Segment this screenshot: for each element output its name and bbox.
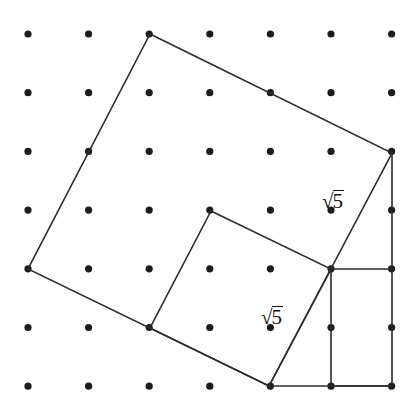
grid-dot [388,89,395,96]
grid-dot [85,324,92,331]
geometry-figure-canvas [0,0,419,405]
grid-dot [206,89,213,96]
grid-dot [388,30,395,37]
small-tilted-square [150,211,331,386]
radical-group-lower: √5 [261,306,283,328]
grid-dot [24,383,31,390]
grid-dot [206,265,213,272]
grid-dot [85,30,92,37]
radicand-value: 5 [333,190,345,212]
grid-dot [146,265,153,272]
grid-dot [85,265,92,272]
grid-dot [24,148,31,155]
grid-dot [146,383,153,390]
grid-dot [206,383,213,390]
grid-dot [24,324,31,331]
grid-dot [85,89,92,96]
length-label-lower: √5 [261,306,283,328]
grid-dot [146,89,153,96]
length-label-upper: √5 [322,190,344,212]
figure-root: √5 √5 [0,0,419,405]
grid-dot [146,207,153,214]
grid-dot [327,89,334,96]
grid-dot [327,148,334,155]
grid-dot [206,30,213,37]
radical-group-upper: √5 [322,190,344,212]
grid-dot [85,383,92,390]
grid-dot [267,207,274,214]
grid-dot [24,30,31,37]
radicand-value: 5 [272,306,284,328]
grid-dot [85,207,92,214]
grid-dot [327,30,334,37]
grid-dot [267,148,274,155]
grid-dot [267,30,274,37]
grid-dot [24,207,31,214]
grid-dot [146,148,153,155]
grid-dot [24,89,31,96]
grid-dot [206,148,213,155]
grid-dot [267,265,274,272]
grid-dot [206,324,213,331]
right-axis-aligned-rectangle [331,269,392,386]
